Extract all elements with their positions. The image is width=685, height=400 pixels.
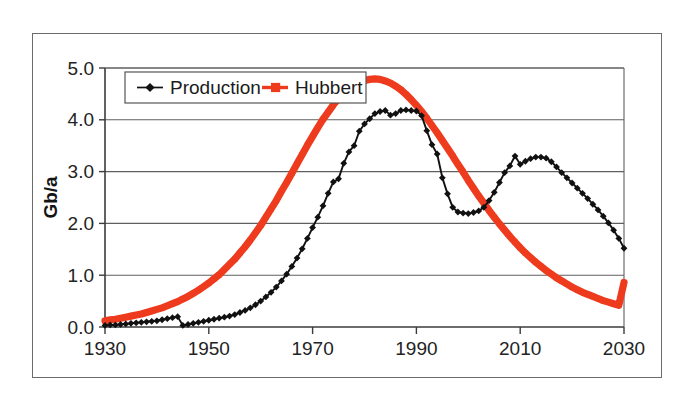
marker-hubbert — [538, 264, 543, 269]
marker-hubbert — [123, 315, 128, 320]
marker-hubbert — [315, 125, 320, 130]
marker-hubbert — [134, 312, 139, 317]
marker-production — [439, 174, 446, 181]
marker-hubbert — [590, 294, 595, 299]
marker-hubbert — [232, 257, 237, 262]
marker-hubbert — [528, 255, 533, 260]
y-axis-label-5.0: 5.0 — [68, 58, 94, 79]
marker-hubbert — [243, 244, 248, 249]
marker-production — [320, 202, 327, 209]
marker-production — [621, 245, 628, 252]
legend-label-hubbert: Hubbert — [295, 77, 363, 98]
marker-hubbert — [201, 284, 206, 289]
marker-hubbert — [149, 308, 154, 313]
figure-root: 0.01.02.03.04.05.0 193019501970199020102… — [0, 0, 685, 400]
x-axis-label-1930: 1930 — [84, 338, 126, 359]
marker-hubbert — [435, 130, 440, 135]
marker-hubbert — [621, 280, 626, 285]
marker-hubbert — [502, 228, 507, 233]
marker-hubbert — [383, 78, 388, 83]
marker-hubbert — [585, 292, 590, 297]
marker-hubbert — [466, 178, 471, 183]
marker-hubbert — [507, 234, 512, 239]
marker-hubbert — [263, 215, 268, 220]
marker-hubbert — [388, 80, 393, 85]
marker-hubbert — [611, 301, 616, 306]
marker-production — [159, 316, 166, 323]
y-axis-label-1.0: 1.0 — [68, 265, 94, 286]
marker-hubbert — [497, 221, 502, 226]
marker-hubbert — [570, 285, 575, 290]
marker-hubbert — [217, 272, 222, 277]
marker-production — [164, 315, 171, 322]
y-axis-label-2.0: 2.0 — [68, 213, 94, 234]
data-series — [102, 76, 628, 329]
marker-hubbert — [180, 296, 185, 301]
marker-production — [538, 154, 545, 161]
marker-hubbert — [393, 84, 398, 89]
marker-hubbert — [606, 300, 611, 305]
marker-hubbert — [211, 276, 216, 281]
marker-hubbert — [476, 193, 481, 198]
marker-hubbert — [429, 123, 434, 128]
marker-hubbert — [616, 303, 621, 308]
marker-hubbert — [492, 215, 497, 220]
marker-hubbert — [533, 260, 538, 265]
marker-hubbert — [274, 198, 279, 203]
marker-hubbert — [523, 250, 528, 255]
marker-hubbert — [544, 268, 549, 273]
marker-hubbert — [471, 186, 476, 191]
y-axis-label-4.0: 4.0 — [68, 109, 94, 130]
marker-production — [226, 313, 233, 320]
marker-hubbert — [575, 287, 580, 292]
marker-production — [325, 190, 332, 197]
series-hubbert — [102, 76, 626, 323]
marker-hubbert — [564, 281, 569, 286]
marker-hubbert — [461, 170, 466, 175]
marker-hubbert — [165, 303, 170, 308]
x-axis-label-2010: 2010 — [499, 338, 541, 359]
marker-production — [200, 318, 207, 325]
legend-marker-square-icon — [271, 83, 280, 92]
marker-hubbert — [398, 87, 403, 92]
marker-production — [423, 127, 430, 134]
marker-production — [340, 160, 347, 167]
marker-hubbert — [159, 305, 164, 310]
marker-hubbert — [367, 77, 372, 82]
chart-legend: ProductionHubbert — [125, 72, 366, 103]
marker-hubbert — [518, 245, 523, 250]
x-axis-label-1970: 1970 — [291, 338, 333, 359]
marker-hubbert — [372, 76, 377, 81]
marker-production — [309, 224, 316, 231]
marker-hubbert — [559, 278, 564, 283]
marker-hubbert — [377, 77, 382, 82]
y-axis-title: Gb/a — [40, 176, 61, 219]
marker-hubbert — [139, 311, 144, 316]
marker-hubbert — [248, 237, 253, 242]
marker-hubbert — [445, 146, 450, 151]
marker-hubbert — [305, 143, 310, 148]
marker-hubbert — [144, 310, 149, 315]
marker-hubbert — [118, 316, 123, 321]
marker-hubbert — [512, 239, 517, 244]
marker-production — [154, 317, 161, 324]
marker-hubbert — [450, 153, 455, 158]
marker-hubbert — [279, 189, 284, 194]
marker-hubbert — [113, 317, 118, 322]
marker-hubbert — [268, 206, 273, 211]
marker-hubbert — [206, 280, 211, 285]
marker-production — [304, 235, 311, 242]
marker-hubbert — [222, 267, 227, 272]
marker-hubbert — [580, 290, 585, 295]
marker-hubbert — [310, 134, 315, 139]
marker-hubbert — [409, 97, 414, 102]
marker-hubbert — [258, 223, 263, 228]
y-axis-label-3.0: 3.0 — [68, 161, 94, 182]
marker-hubbert — [326, 109, 331, 114]
x-axis-tick-labels: 193019501970199020102030 — [84, 338, 645, 359]
marker-hubbert — [128, 314, 133, 319]
marker-production — [465, 210, 472, 217]
marker-hubbert — [320, 117, 325, 122]
marker-production — [216, 315, 223, 322]
marker-hubbert — [403, 92, 408, 97]
